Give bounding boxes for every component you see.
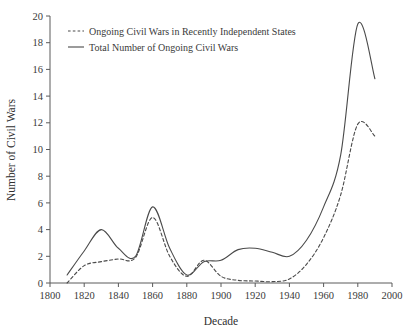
- x-tick-label: 1840: [108, 290, 129, 301]
- civil-wars-line-chart: 02468101214161820 1800182018401860188019…: [0, 0, 413, 333]
- x-tick-label: 1940: [279, 290, 300, 301]
- y-tick-label: 2: [38, 251, 43, 262]
- x-tick-label: 1880: [176, 290, 197, 301]
- legend-label: Ongoing Civil Wars in Recently Independe…: [89, 26, 296, 37]
- y-tick-label: 0: [38, 278, 43, 289]
- y-tick-label: 16: [33, 64, 44, 75]
- x-tick-label: 1960: [313, 290, 334, 301]
- x-tick-label: 1900: [211, 290, 232, 301]
- chart-canvas: 02468101214161820 1800182018401860188019…: [0, 0, 413, 333]
- x-tick-label: 1800: [40, 290, 61, 301]
- y-tick-label: 18: [33, 37, 44, 48]
- x-tick-label: 1980: [347, 290, 368, 301]
- legend-label: Total Number of Ongoing Civil Wars: [89, 42, 238, 53]
- y-tick-label: 12: [33, 117, 44, 128]
- y-tick-label: 8: [38, 171, 43, 182]
- y-tick-label: 10: [33, 144, 44, 155]
- y-tick-label: 20: [33, 11, 44, 22]
- y-tick-label: 4: [38, 224, 44, 235]
- y-tick-label: 14: [33, 91, 44, 102]
- y-axis-title: Number of Civil Wars: [5, 98, 17, 201]
- x-tick-label: 2000: [382, 290, 403, 301]
- x-tick-label: 1820: [74, 290, 95, 301]
- x-tick-label: 1860: [142, 290, 163, 301]
- y-tick-label: 6: [38, 198, 43, 209]
- x-tick-label: 1920: [245, 290, 266, 301]
- x-axis-title: Decade: [204, 315, 238, 327]
